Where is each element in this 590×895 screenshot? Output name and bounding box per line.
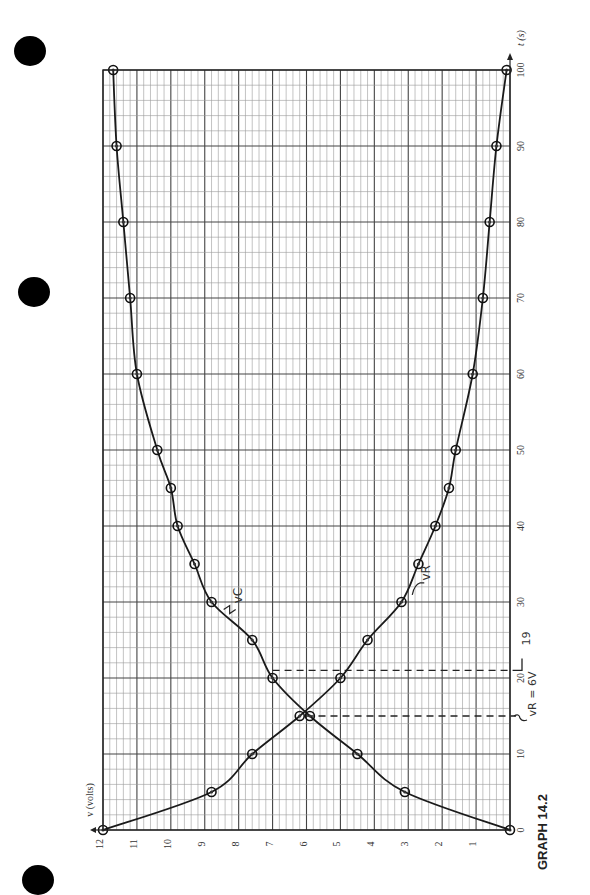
data-point-dot-vC (156, 448, 159, 451)
x-axis-title: t (s) (515, 29, 527, 46)
y-tick-label: 3 (399, 842, 410, 847)
x-tick-label: 60 (515, 369, 526, 379)
data-point-dot-vR (454, 448, 457, 451)
reference-bracket (516, 658, 522, 670)
data-point-dot-vC (356, 752, 359, 755)
y-tick-label: 10 (162, 839, 173, 849)
y-tick-label: 6 (298, 842, 309, 847)
data-point-dot-vC (129, 296, 132, 299)
data-point-dot-vR (481, 296, 484, 299)
x-tick-label: 0 (515, 828, 526, 833)
data-point-dot-vR (495, 144, 498, 147)
labels: 0102030405060708090100123456789101112t (… (84, 29, 539, 849)
data-point-dot-vC (115, 144, 118, 147)
y-tick-label: 7 (264, 842, 275, 847)
data-point-dot-vR (298, 714, 301, 717)
y-tick-label: 12 (94, 839, 105, 849)
data-point-dot-vC (308, 714, 311, 717)
y-tick-label: 4 (365, 842, 376, 847)
annotation-vR: vR (419, 565, 433, 580)
y-tick-label: 5 (331, 842, 342, 847)
reference-label-19: 19 (520, 631, 533, 645)
x-tick-label: 10 (515, 749, 526, 759)
x-tick-label: 50 (515, 445, 526, 455)
y-tick-label: 9 (196, 842, 207, 847)
data-point-dot-vR (447, 486, 450, 489)
x-tick-label: 20 (515, 673, 526, 683)
data-point-dot-vR (339, 676, 342, 679)
data-point-dot-vC (169, 486, 172, 489)
data-point-dot-vR (471, 372, 474, 375)
x-tick-label: 90 (515, 141, 526, 151)
data-point-dot-vC (403, 790, 406, 793)
data-point-dot-vC (193, 562, 196, 565)
data-point-dot-vR (366, 638, 369, 641)
annotation-pointer-vC (224, 606, 236, 614)
y-axis-title: v (volts) (84, 783, 96, 817)
x-tick-label: 70 (515, 293, 526, 303)
reference-label-vr-6v: vR = 6V (526, 671, 539, 716)
annotation-pointer-vR (412, 583, 424, 595)
data-point-dot-vR (400, 600, 403, 603)
axes (90, 53, 513, 833)
y-tick-label: 1 (467, 842, 478, 847)
y-tick-label: 11 (128, 839, 139, 849)
graph-caption: GRAPH 14.2 (535, 794, 550, 870)
data-point-dot-vR (210, 790, 213, 793)
data-point-dot-vR (434, 524, 437, 527)
t-axis-arrowhead (507, 53, 513, 60)
data-point-dot-vC (135, 372, 138, 375)
y-tick-label: 8 (230, 842, 241, 847)
y-tick-label: 2 (433, 842, 444, 847)
data-point-dot-vC (122, 220, 125, 223)
data-point-dot-vR (251, 752, 254, 755)
data-point-dot-vC (251, 638, 254, 641)
data-point-dot-vC (176, 524, 179, 527)
x-tick-label: 80 (515, 217, 526, 227)
x-tick-label: 30 (515, 597, 526, 607)
data-point-dot-vC (210, 600, 213, 603)
x-tick-label: 40 (515, 521, 526, 531)
x-tick-label: 100 (515, 63, 526, 78)
annotation-vC: vC (231, 588, 245, 603)
data-point-dot-vC (271, 676, 274, 679)
data-point-dot-vR (488, 220, 491, 223)
v-axis-arrowhead (90, 827, 96, 833)
